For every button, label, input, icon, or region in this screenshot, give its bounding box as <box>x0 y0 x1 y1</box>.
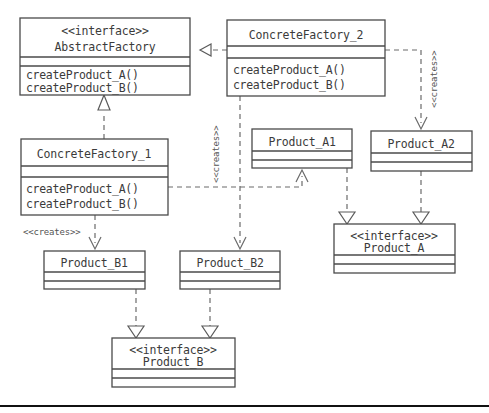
edge-cf1-creates-product-b1: <<creates>> <box>23 215 101 249</box>
class-name-product-b2: Product_B2 <box>196 256 263 270</box>
class-method-concrete-factory-2-a: createProduct_A() <box>233 63 346 77</box>
edge-cf1-creates-product-a1 <box>168 170 308 187</box>
class-box-concrete-factory-2[interactable]: ConcreteFactory_2 createProduct_A() crea… <box>227 20 385 96</box>
class-box-product-a1[interactable]: Product_A1 <box>252 129 352 168</box>
class-box-product-b2[interactable]: Product_B2 <box>180 251 280 289</box>
class-name-product-a2: Product_A2 <box>387 137 454 151</box>
edge-cf2-creates-product-b2: <<creates>> <box>211 96 246 249</box>
class-method-abstract-factory-b: createProduct_B() <box>26 81 139 95</box>
class-box-product-a-interface[interactable]: <<interface>> Product_A <box>334 224 455 273</box>
class-name-product-a-interface: Product_A <box>364 241 425 255</box>
edge-cf2-creates-product-a2: <<creates>> <box>385 50 439 129</box>
class-box-product-b-interface[interactable]: <<interface>> Product_B <box>112 338 235 387</box>
edge-b2-realizes-product-b <box>202 289 218 338</box>
class-name-abstract-factory: AbstractFactory <box>55 40 156 54</box>
edge-cf1-realizes-abstractfactory <box>98 95 110 139</box>
uml-class-diagram: <<creates>> <<creates>> <<creates>> <box>0 0 489 413</box>
class-box-abstract-factory[interactable]: <<interface>> AbstractFactory createProd… <box>20 18 190 95</box>
class-name-product-a1: Product_A1 <box>268 135 336 149</box>
class-method-concrete-factory-1-a: createProduct_A() <box>26 182 139 196</box>
class-name-concrete-factory-2: ConcreteFactory_2 <box>249 28 363 42</box>
class-method-concrete-factory-1-b: createProduct_B() <box>26 197 139 211</box>
edge-label-creates-cf2-b2: <<creates>> <box>211 125 221 183</box>
edge-label-creates-cf2-a2: <<creates>> <box>429 50 439 108</box>
edge-b1-realizes-product-b <box>128 289 144 338</box>
edge-a2-realizes-product-a <box>413 171 429 224</box>
class-name-concrete-factory-1: ConcreteFactory_1 <box>37 147 152 161</box>
class-method-abstract-factory-a: createProduct_A() <box>26 68 139 82</box>
class-box-product-a2[interactable]: Product_A2 <box>371 131 472 171</box>
class-method-concrete-factory-2-b: createProduct_B() <box>233 78 346 92</box>
edge-a1-realizes-product-a <box>339 168 355 224</box>
edge-label-creates-cf1-b1: <<creates>> <box>23 227 81 237</box>
class-box-concrete-factory-1[interactable]: ConcreteFactory_1 createProduct_A() crea… <box>21 139 168 215</box>
class-name-product-b1: Product_B1 <box>60 256 128 270</box>
edge-cf2-realizes-abstractfactory <box>200 44 227 56</box>
class-box-product-b1[interactable]: Product_B1 <box>44 251 145 289</box>
class-name-product-b-interface: Product_B <box>143 355 204 369</box>
class-stereotype-abstract-factory: <<interface>> <box>61 24 149 38</box>
